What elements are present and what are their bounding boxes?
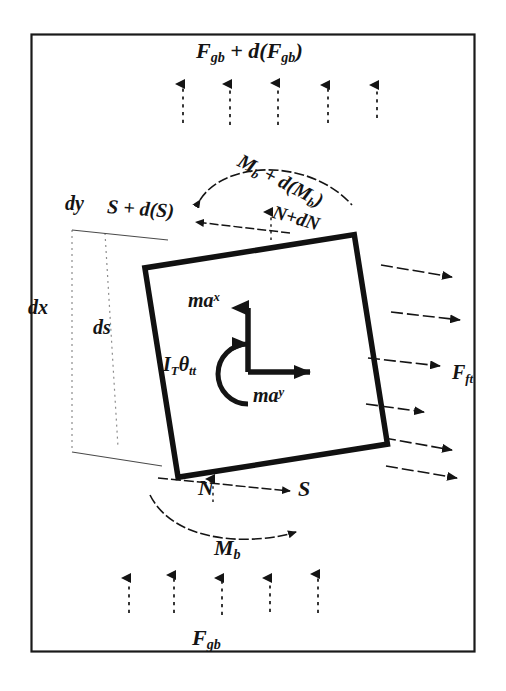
figure-frame — [32, 35, 475, 652]
label-inertia-y: may — [253, 385, 284, 405]
label-bottom-body-force: Fgb — [192, 627, 221, 651]
label-dy: dy — [65, 193, 84, 213]
label-shear-bottom: S — [298, 478, 310, 500]
label-normal-bottom: N — [198, 477, 214, 499]
figure-canvas: Fgb + d(Fgb) Mb + d(Mb) S + d(S) N+dN dy… — [0, 0, 506, 691]
label-rotational-inertia: ITθtt — [163, 354, 196, 377]
label-ds: ds — [93, 317, 111, 337]
label-top-body-force: Fgb + d(Fgb) — [196, 40, 303, 64]
label-moment-bottom: Mb — [214, 537, 241, 561]
free-body-diagram-svg — [0, 0, 506, 691]
label-traction-force: Fft — [452, 362, 473, 385]
label-dx: dx — [28, 297, 48, 317]
label-inertia-x: max — [188, 290, 220, 310]
label-shear-top: S + d(S) — [107, 196, 175, 221]
